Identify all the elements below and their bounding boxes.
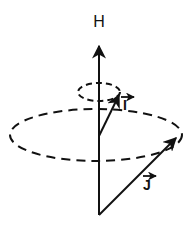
precession-diagram: H I J (0, 0, 190, 227)
j-label: J (143, 177, 151, 193)
large-precession-ellipse (10, 109, 182, 161)
j-vector-arrow (99, 138, 176, 215)
i-label: I (123, 97, 127, 113)
h-label: H (93, 13, 105, 30)
j-label-group: J (143, 176, 156, 193)
